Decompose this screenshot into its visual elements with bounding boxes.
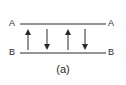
arrow-down-icon: [44, 29, 50, 50]
line-b-left-label: B: [9, 48, 15, 57]
line-a-right-label: A: [108, 19, 114, 28]
line-a-left-label: A: [9, 19, 15, 28]
diagram-figure: A A B B (a): [0, 0, 126, 85]
arrow-up-icon: [65, 29, 71, 50]
arrow-up-icon: [25, 29, 31, 50]
figure-caption: (a): [0, 64, 126, 75]
arrow-down-icon: [82, 29, 88, 50]
line-b-right-label: B: [108, 48, 114, 57]
